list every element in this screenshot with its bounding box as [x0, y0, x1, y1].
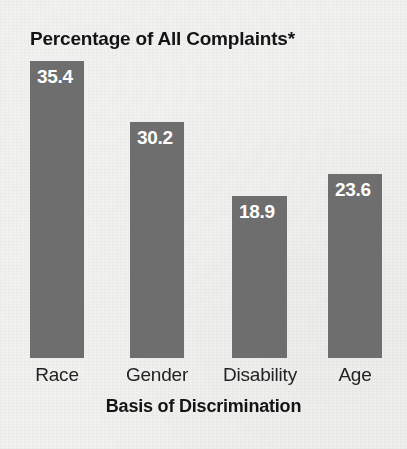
bar-age: 23.6 [328, 174, 382, 358]
bar-group-race: 35.4 [30, 61, 84, 358]
bar-value-race: 35.4 [37, 66, 73, 88]
bar-chart-figure: Percentage of All Complaints* 35.4 30.2 … [0, 0, 407, 449]
bar-value-age: 23.6 [335, 179, 371, 201]
x-axis-title: Basis of Discrimination [0, 396, 407, 417]
category-label-race: Race [12, 364, 102, 386]
bar-group-gender: 30.2 [130, 122, 184, 358]
plot-area: 35.4 30.2 18.9 23.6 Race Gender Disabili… [0, 0, 407, 449]
category-label-age: Age [310, 364, 400, 386]
bar-value-gender: 30.2 [137, 127, 173, 149]
bar-disability: 18.9 [232, 196, 287, 358]
bar-gender: 30.2 [130, 122, 184, 358]
bar-value-disability: 18.9 [239, 201, 275, 223]
category-label-disability: Disability [205, 364, 315, 386]
bar-group-disability: 18.9 [232, 196, 287, 358]
bar-race: 35.4 [30, 61, 84, 358]
bar-group-age: 23.6 [328, 174, 382, 358]
category-label-gender: Gender [107, 364, 207, 386]
